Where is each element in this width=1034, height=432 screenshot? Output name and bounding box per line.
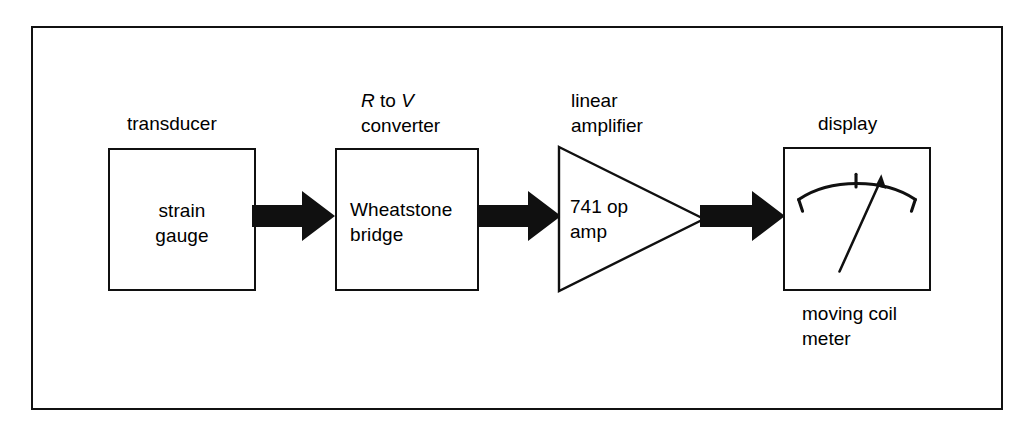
block-display-moving-coil-meter xyxy=(783,147,931,291)
signal-arrow-transducer-to-converter xyxy=(252,190,336,246)
block-amplifier-741-op-amp: 741 op amp xyxy=(552,140,712,298)
block-arrow-right-icon xyxy=(478,190,562,242)
caption-converter-to: to xyxy=(375,90,401,111)
block-diagram-figure: transducer strain gauge R to Vconverter … xyxy=(0,0,1034,432)
analog-meter-icon xyxy=(785,149,929,289)
caption-converter-word: converter xyxy=(361,115,440,136)
caption-transducer: transducer xyxy=(127,111,217,136)
caption-converter-symbol-r: R xyxy=(361,90,375,111)
caption-moving-coil-meter: moving coil meter xyxy=(802,301,897,351)
caption-converter-symbol-v: V xyxy=(401,90,414,111)
diagram-stage: transducer strain gauge R to Vconverter … xyxy=(0,0,1034,432)
block-converter-wheatstone-bridge: Wheatstone bridge xyxy=(335,148,479,291)
block-converter-label: Wheatstone bridge xyxy=(337,197,477,247)
block-arrow-right-icon xyxy=(252,190,336,242)
block-transducer-label: strain gauge xyxy=(110,198,254,248)
caption-display: display xyxy=(818,111,877,136)
block-amplifier-label: 741 op amp xyxy=(570,194,628,244)
signal-arrow-converter-to-amplifier xyxy=(478,190,562,246)
block-transducer-strain-gauge: strain gauge xyxy=(108,148,256,291)
caption-converter: R to Vconverter xyxy=(361,88,440,138)
signal-arrow-amplifier-to-display xyxy=(700,190,786,246)
block-arrow-right-icon xyxy=(700,190,786,242)
caption-amplifier: linear amplifier xyxy=(571,88,643,138)
